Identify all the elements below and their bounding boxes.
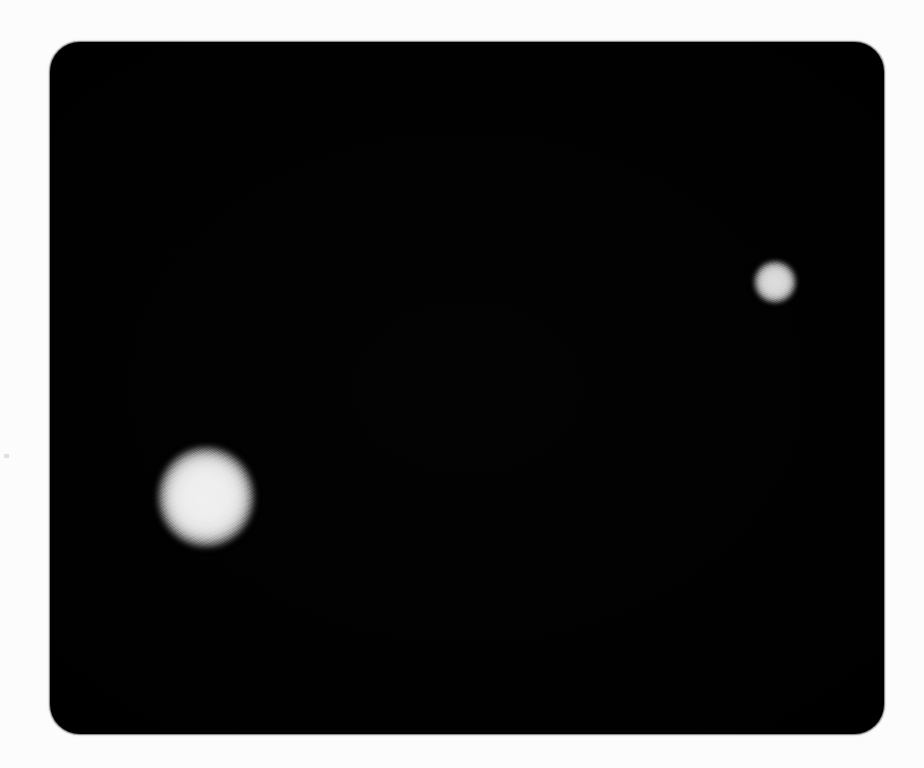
image-canvas: Dark rounded panel with two glowing roun…	[0, 0, 924, 768]
margin-speck-artifact	[4, 454, 9, 458]
image-caption: Dark rounded panel with two glowing roun…	[0, 0, 1, 1]
dark-panel	[50, 42, 884, 734]
panel-vignette	[50, 42, 884, 734]
